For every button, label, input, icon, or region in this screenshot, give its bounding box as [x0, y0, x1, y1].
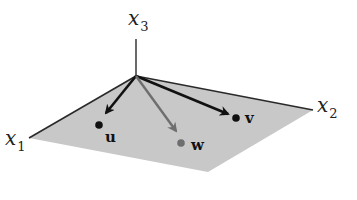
point-v	[232, 114, 240, 122]
point-w	[177, 139, 185, 147]
label-x3: x3	[128, 6, 149, 34]
label-v: v	[244, 109, 255, 127]
label-u: u	[105, 128, 116, 146]
label-x1: x1	[5, 126, 26, 154]
label-x2: x2	[317, 93, 338, 121]
point-u	[95, 121, 103, 129]
vector-plane-diagram: u v w x3 x2 x1	[0, 0, 357, 200]
label-w: w	[190, 136, 205, 154]
